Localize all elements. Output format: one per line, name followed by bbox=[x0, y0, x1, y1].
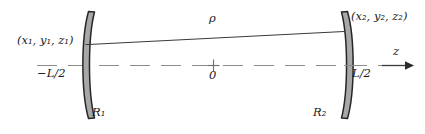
z-axis-label: z bbox=[393, 46, 399, 58]
rho-label: ρ bbox=[209, 13, 216, 25]
mirror2-radius-label: R₂ bbox=[313, 107, 326, 119]
right-position-label: L/2 bbox=[352, 68, 371, 80]
left-mirror-body bbox=[83, 12, 95, 119]
left-concave-mirror bbox=[83, 12, 95, 119]
origin-label: 0 bbox=[209, 70, 216, 82]
mirror1-radius-label: R₁ bbox=[92, 107, 105, 119]
point2-coordinate-label: (x₂, y₂, z₂) bbox=[351, 11, 407, 23]
axis-arrowhead-icon bbox=[405, 61, 414, 69]
optical-resonator-figure: (x₁, y₁, z₁) (x₂, y₂, z₂) ρ z −L/2 L/2 0… bbox=[0, 0, 425, 134]
left-position-label: −L/2 bbox=[37, 68, 65, 80]
point1-coordinate-label: (x₁, y₁, z₁) bbox=[17, 35, 73, 47]
rho-separation-line bbox=[89, 32, 345, 45]
